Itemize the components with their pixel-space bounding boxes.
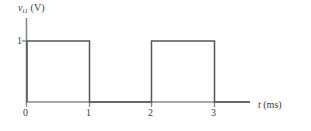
x-axis-title: t (ms) (258, 100, 282, 110)
x-axis-symbol: t (258, 99, 261, 110)
y-axis-title: vi1 (V) (18, 3, 45, 15)
y-axis-subscript: i1 (22, 7, 28, 15)
x-tick-label-0: 0 (23, 108, 28, 118)
plot-canvas (0, 0, 311, 131)
y-tick-label-1: 1 (17, 36, 22, 46)
y-axis-unit: (V) (31, 2, 45, 13)
x-tick-label-1: 1 (86, 108, 91, 118)
x-tick-label-3: 3 (211, 108, 216, 118)
waveform-trace (27, 41, 250, 102)
x-axis-unit: (ms) (263, 99, 281, 110)
waveform-figure: vi1 (V) t (ms) 1 0 1 2 3 (0, 0, 311, 131)
x-tick-label-2: 2 (148, 108, 153, 118)
